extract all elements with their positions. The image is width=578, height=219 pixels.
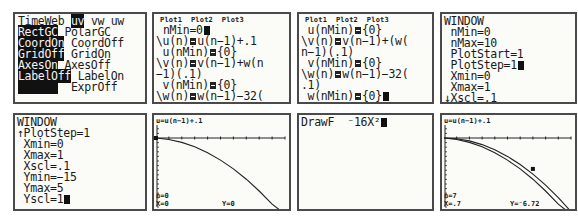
editor-line-w-nmin[interactable]: w(nMin){0} — [301, 91, 432, 102]
equals-icon — [210, 49, 216, 56]
graph-expression-label: u=u(n−1)+.1 — [444, 117, 490, 125]
option-uw[interactable]: uw — [111, 14, 124, 28]
window-settings-screen-2: WINDOW ↑PlotStep=1 Xmin=0 Xmax=1 Xscl=.1… — [13, 113, 147, 211]
option-exproff[interactable]: ExprOff — [71, 80, 117, 94]
text-cursor — [383, 92, 389, 101]
trace-cursor — [154, 136, 158, 140]
equals-icon — [190, 60, 196, 67]
equals-icon — [355, 27, 361, 34]
trace-n-value: n=7 — [444, 192, 457, 200]
sequence-editor-screen-2: Plot1 Plot2 Plot3 u(nMin){0} \v(n)v(n−1)… — [297, 12, 434, 104]
series-line-1 — [156, 138, 285, 209]
equals-icon — [335, 38, 341, 45]
format-row-expr: ExprOn ExprOff — [18, 82, 145, 93]
format-settings-screen: TimeWeb uv vw uw RectGC PolarGC CoordOn … — [13, 12, 147, 104]
equals-icon — [210, 82, 216, 89]
editor-line-w[interactable]: \w(n)w(n−1)−32( — [156, 91, 289, 102]
drawf-command-line[interactable]: DrawF ⁻16X² — [301, 117, 432, 128]
trace-x-value: X=0 — [156, 200, 169, 208]
graph-screen-1: u=u(n−1)+.1 n=0 X=0 Y=0 — [152, 113, 291, 211]
home-screen-drawf: DrawF ⁻16X² — [297, 113, 434, 211]
equals-icon — [355, 60, 361, 67]
window-settings-screen-1: WINDOW nMin=0 nMax=10 PlotStart=1 PlotSt… — [440, 12, 577, 104]
option-expron[interactable]: ExprOn — [18, 80, 58, 94]
text-cursor — [381, 118, 387, 127]
window-field-xscl[interactable]: ↓Xscl=.1 — [444, 93, 575, 104]
equals-icon — [190, 93, 196, 100]
trace-y-value: Y=⁻6.72 — [510, 200, 540, 208]
graph-plot-area[interactable] — [154, 115, 289, 209]
trace-cursor — [531, 167, 535, 171]
window-field-yscl[interactable]: Yscl=1 — [17, 194, 145, 205]
equals-icon — [190, 38, 196, 45]
graph-plot-area[interactable] — [442, 115, 575, 209]
trace-x-value: X=.7 — [444, 200, 461, 208]
trace-y-value: Y=0 — [222, 200, 235, 208]
equals-icon — [335, 71, 341, 78]
equals-icon — [355, 93, 361, 100]
graph-screen-2: u=u(n−1)+.1 n=7 X=.7 Y=⁻6.72 — [440, 113, 577, 211]
trace-n-value: n=0 — [156, 192, 169, 200]
series-line-1 — [444, 138, 571, 209]
graph-expression-label: u=u(n−1)+.1 — [156, 117, 202, 125]
sequence-editor-screen-1: Plot1 Plot2 Plot3 nMin=0 \u(n)u(n−1)+.1 … — [152, 12, 291, 104]
text-cursor — [64, 195, 70, 204]
text-cursor — [518, 61, 524, 70]
